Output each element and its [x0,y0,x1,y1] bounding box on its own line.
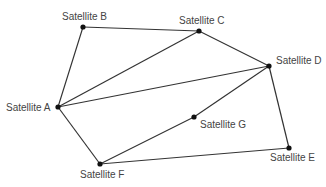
nodes-group [55,24,291,166]
edge-b-c [83,27,199,31]
label-satellite-f: Satellite F [80,169,124,180]
label-satellite-e: Satellite E [270,152,315,163]
node-satellite-c [196,28,201,33]
network-graph: Satellite ASatellite BSatellite CSatelli… [0,0,326,187]
node-satellite-g [191,114,196,119]
label-satellite-d: Satellite D [276,55,322,66]
node-satellite-d [266,63,271,68]
edge-c-d [199,31,269,66]
node-satellite-e [286,145,291,150]
label-satellite-g: Satellite G [200,119,246,130]
label-satellite-a: Satellite A [6,102,51,113]
satellite-network-diagram: Satellite ASatellite BSatellite CSatelli… [0,0,326,187]
node-satellite-b [80,24,85,29]
node-satellite-a [55,104,60,109]
edges-group [58,27,289,164]
edge-a-c [58,31,199,107]
node-satellite-f [97,161,102,166]
edge-a-f [58,107,100,164]
edge-d-e [269,66,289,148]
edge-a-d [58,66,269,107]
label-satellite-b: Satellite B [62,11,107,22]
label-satellite-c: Satellite C [179,15,225,26]
labels-group: Satellite ASatellite BSatellite CSatelli… [6,11,322,180]
